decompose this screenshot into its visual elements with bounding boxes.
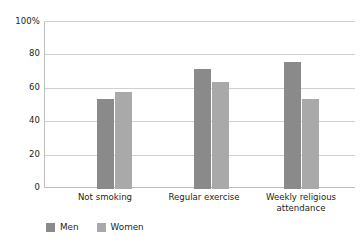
x-label-not-smoking: Not smoking (60, 192, 150, 203)
legend-label-women: Women (111, 222, 144, 232)
x-label-weekly-religious-attendance: Weekly religious attendance (251, 192, 351, 214)
bar-men-not-smoking (97, 99, 114, 189)
y-tick-label-60: 60 (0, 83, 40, 92)
legend-item-men: Men (46, 222, 79, 232)
x-label-regular-exercise: Regular exercise (154, 192, 254, 203)
legend-label-men: Men (60, 222, 79, 232)
bar-men-regular-exercise (194, 69, 211, 189)
bar-men-weekly-religious-attendance (284, 62, 301, 189)
bar-women-weekly-religious-attendance (302, 99, 319, 189)
bar-women-not-smoking (115, 92, 132, 189)
x-label-not-smoking-line1: Not smoking (60, 192, 150, 203)
x-label-weekly-religious-attendance-line2: attendance (251, 203, 351, 214)
bar-chart: 100% 80 60 40 20 0 Not smoking Regular e… (0, 0, 364, 247)
chart-legend: Men Women (46, 222, 144, 232)
y-tick-label-80: 80 (0, 49, 40, 58)
legend-swatch-women (97, 223, 106, 232)
x-axis-labels: Not smoking Regular exercise Weekly reli… (44, 192, 354, 222)
legend-item-women: Women (97, 222, 144, 232)
x-label-weekly-religious-attendance-line1: Weekly religious (251, 192, 351, 203)
y-tick-label-100: 100% (0, 17, 40, 26)
x-label-regular-exercise-line1: Regular exercise (154, 192, 254, 203)
y-tick-label-0: 0 (0, 183, 40, 192)
bar-women-regular-exercise (212, 82, 229, 189)
legend-swatch-men (46, 223, 55, 232)
bar-groups (44, 21, 354, 189)
y-tick-label-20: 20 (0, 150, 40, 159)
y-tick-label-40: 40 (0, 116, 40, 125)
